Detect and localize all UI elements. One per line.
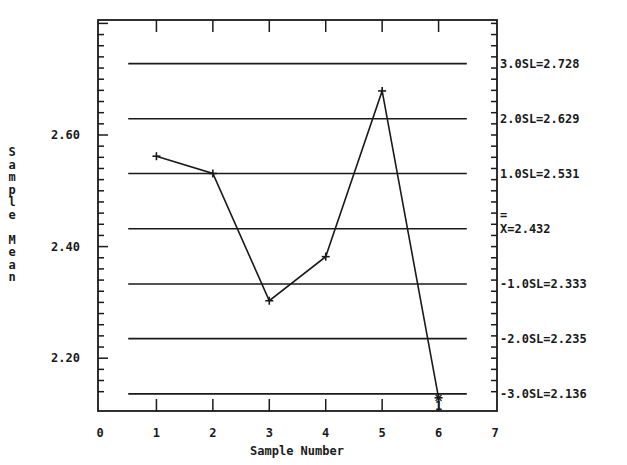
x-tick-label: 6 [435,426,442,440]
control-limit-label: X=2.432 [500,222,551,236]
sample-mean-line [156,91,438,398]
control-limit-labels: 3.0SL=2.7282.0SL=2.6291.0SL=2.531=X=2.43… [500,57,587,401]
y-tick-label: 2.60 [51,128,80,142]
control-limit-label: 1.0SL=2.531 [500,167,579,181]
x-axis-label: Sample Number [250,444,344,458]
axis-ticks [98,20,497,411]
x-tick-label: 2 [209,426,216,440]
data-point-marker [209,170,217,178]
control-limit-label: 3.0SL=2.728 [500,57,579,71]
y-tick-label: 2.20 [51,351,80,365]
data-point-marker [378,87,386,95]
y-label-char: n [8,270,15,284]
control-limit-label: -1.0SL=2.333 [500,277,587,291]
y-axis-label: SampleMean [8,145,15,284]
x-tick-label: 5 [379,426,386,440]
control-limit-lines [128,64,467,394]
plot-border [98,20,497,411]
x-tick-label: 7 [491,426,498,440]
x-tick-label: 1 [153,426,160,440]
center-line-bar-glyph: = [500,208,507,222]
xbar-control-chart: 3.0SL=2.7282.0SL=2.6291.0SL=2.531=X=2.43… [0,0,627,465]
control-limit-label: 2.0SL=2.629 [500,112,579,126]
control-limit-label: -3.0SL=2.136 [500,387,587,401]
y-label-char: e [8,208,15,222]
out-of-control-flag: 1 [435,399,442,413]
data-point-marker [152,152,160,160]
x-tick-label: 0 [96,426,103,440]
x-tick-labels: 01234567 [96,426,498,440]
y-tick-label: 2.40 [51,240,80,254]
x-tick-label: 3 [266,426,273,440]
plot-frame [98,20,497,411]
y-tick-labels: 2.202.402.60 [51,128,80,365]
x-tick-label: 4 [322,426,329,440]
control-limit-label: -2.0SL=2.235 [500,332,587,346]
data-series: 1 [152,87,442,413]
